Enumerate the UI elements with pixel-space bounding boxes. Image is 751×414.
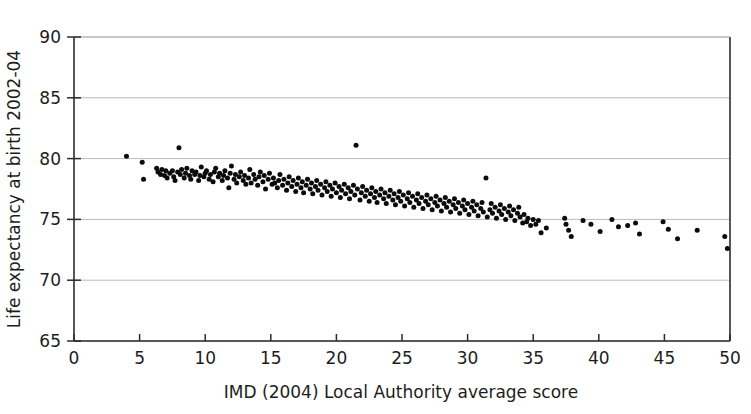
data-point [141,177,146,182]
data-point [392,191,397,196]
data-point [633,221,638,226]
data-point [386,194,391,199]
data-point [275,185,280,190]
data-point [452,196,457,201]
data-point [267,171,272,176]
data-point [417,201,422,206]
data-point [410,194,415,199]
data-point [170,168,175,173]
data-point [237,174,242,179]
data-point [318,182,323,187]
data-point [695,228,700,233]
data-point [196,178,201,183]
y-axis-title: Life expectancy at birth 2002-04 [4,50,24,328]
data-point [287,174,292,179]
data-point [470,199,475,204]
data-point [401,193,406,198]
data-point [352,193,357,198]
data-point [329,194,334,199]
data-point [539,230,544,235]
data-point [285,180,290,185]
x-tick-label-40: 40 [588,348,610,368]
data-point [255,183,260,188]
data-point [439,208,444,213]
data-point [343,191,348,196]
x-tick-label-45: 45 [654,348,676,368]
data-point [266,177,271,182]
tick-marks [67,37,730,341]
data-point [420,206,425,211]
data-point [503,217,508,222]
data-point [342,182,347,187]
data-point [271,176,276,181]
data-point [293,189,298,194]
data-point [581,218,586,223]
data-point [382,190,387,195]
data-point [448,210,453,215]
x-tick-label-30: 30 [457,348,479,368]
data-point [351,183,356,188]
data-point [508,213,513,218]
data-point [372,195,377,200]
data-point [249,180,254,185]
data-point [289,184,294,189]
data-point [333,180,338,185]
data-point [251,172,256,177]
data-point [476,213,481,218]
data-point [588,222,593,227]
data-point [675,236,680,241]
data-point [544,225,549,230]
data-point [598,229,603,234]
data-point [291,178,296,183]
data-point [258,169,263,174]
data-point [384,201,389,206]
data-point [260,179,265,184]
data-point [536,218,541,223]
data-point [295,182,300,187]
data-point [426,202,431,207]
data-point [184,166,189,171]
data-point [438,197,443,202]
data-point [309,180,314,185]
data-point [305,177,310,182]
data-point [507,204,512,209]
data-point [325,189,330,194]
data-point [483,176,488,181]
x-tick-label-0: 0 [69,348,80,368]
data-point [511,207,516,212]
data-point [277,172,282,177]
data-point [485,214,490,219]
data-point [229,163,234,168]
data-point [481,210,486,215]
data-point [480,200,485,205]
data-point [393,202,398,207]
data-point [411,205,416,210]
data-point [415,191,420,196]
data-point [499,212,504,217]
data-point [493,205,498,210]
data-point [472,208,477,213]
data-point [188,177,193,182]
data-point [173,178,178,183]
data-point [256,174,261,179]
x-tick-label-15: 15 [260,348,282,368]
data-point [406,190,411,195]
data-point [234,180,239,185]
data-point [276,178,281,183]
y-tick-label-65: 65 [39,331,61,351]
data-point [381,196,386,201]
data-point [522,212,527,217]
data-point [310,191,315,196]
data-point [182,176,187,181]
data-point [339,188,344,193]
data-point [369,185,374,190]
data-point [359,190,364,195]
data-point [661,219,666,224]
data-point [364,188,369,193]
data-point [247,167,252,172]
data-point [397,189,402,194]
x-tick-labels: 05101520253035404550 [69,348,741,368]
x-tick-label-20: 20 [326,348,348,368]
data-point [443,195,448,200]
data-point [494,216,499,221]
